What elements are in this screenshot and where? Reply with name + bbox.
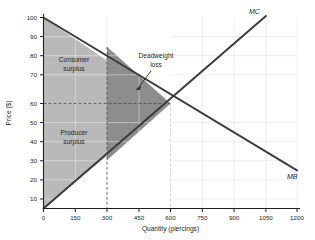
producer-surplus-label-line1: Producer — [61, 129, 89, 136]
y-tick-label-60: 60 — [30, 100, 37, 107]
economics-surplus-chart: 100 90 80 70 60 50 40 30 20 10 0 150 300… — [0, 0, 315, 240]
x-tick-label-0: 0 — [42, 214, 46, 221]
y-tick-label-90: 90 — [30, 33, 37, 40]
x-tick-label-150: 150 — [70, 214, 81, 221]
x-tick-label-1050: 1050 — [259, 214, 273, 221]
x-tick-label-300: 300 — [102, 214, 113, 221]
y-tick-label-100: 100 — [27, 14, 38, 21]
producer-surplus-label-line2: surplus — [63, 138, 85, 146]
y-tick-label-70: 70 — [30, 71, 37, 78]
deadweight-loss-label-line1: Deadweight — [139, 52, 174, 60]
y-tick-label-50: 50 — [30, 119, 37, 126]
mc-curve-label: MC — [249, 8, 261, 15]
consumer-surplus-label-line2: surplus — [63, 65, 85, 73]
chart-canvas: 100 90 80 70 60 50 40 30 20 10 0 150 300… — [0, 0, 315, 240]
x-tick-label-600: 600 — [165, 214, 176, 221]
x-tick-label-1200: 1200 — [290, 214, 304, 221]
x-tick-label-450: 450 — [134, 214, 145, 221]
y-tick-label-80: 80 — [30, 52, 37, 59]
y-tick-label-30: 30 — [30, 157, 37, 164]
y-tick-label-20: 20 — [30, 176, 37, 183]
mb-curve-label: MB — [287, 173, 298, 180]
consumer-surplus-label-line1: Consumer — [59, 56, 90, 63]
deadweight-loss-label-line2: loss — [150, 61, 162, 68]
x-axis-title: Quantity (piercings) — [142, 225, 199, 233]
y-axis-title: Price ($) — [5, 101, 13, 126]
x-tick-label-900: 900 — [229, 214, 240, 221]
y-tick-label-40: 40 — [30, 138, 37, 145]
x-tick-label-750: 750 — [197, 214, 208, 221]
y-tick-label-10: 10 — [30, 195, 37, 202]
